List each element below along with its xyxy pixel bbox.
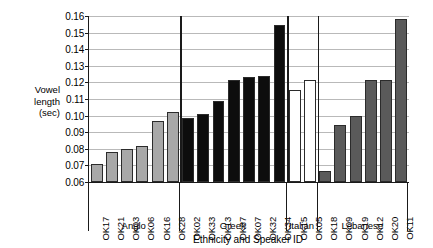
- y-axis-tick-label: 0.07: [65, 160, 84, 171]
- y-axis-tick-label: 0.11: [66, 94, 84, 105]
- bar: [334, 125, 346, 182]
- group-separator: [287, 16, 289, 182]
- group-label-anglo: Anglo: [88, 220, 179, 231]
- plot-area: [88, 16, 409, 183]
- x-axis-tick-labels: OK17OK21OK03OK06OK16OK28OK02OK33OK13OK37…: [88, 183, 408, 219]
- y-axis-tick-label: 0.12: [65, 77, 84, 88]
- y-axis-title: Vowel length (sec): [4, 84, 60, 119]
- y-axis-tick-label: 0.13: [65, 60, 84, 71]
- bar: [167, 112, 179, 182]
- bar: [289, 90, 301, 182]
- y-axis-title-line-1: Vowel: [4, 84, 60, 96]
- y-axis-tick-label: 0.14: [65, 44, 84, 55]
- group-label-italian: Italian: [286, 220, 316, 231]
- y-axis-title-line-2: length: [4, 96, 60, 108]
- bar: [213, 101, 225, 182]
- bar: [152, 121, 164, 182]
- bar: [197, 114, 209, 182]
- bar: [182, 118, 194, 182]
- group-boundary-tick: [88, 183, 89, 231]
- group-label-greek: Greek: [179, 220, 286, 231]
- group-boundary-tick: [407, 183, 408, 231]
- bar: [395, 19, 407, 182]
- bar: [365, 80, 377, 182]
- group-label-band: AngloGreekItalianLebanese: [88, 219, 408, 234]
- y-axis-tick-label: 0.10: [65, 110, 84, 121]
- y-axis-tick-labels: 0.060.070.080.090.100.110.120.130.140.15…: [58, 10, 84, 182]
- bar: [106, 152, 118, 182]
- y-axis-tick-label: 0.16: [65, 11, 84, 22]
- y-axis-tick-label: 0.06: [65, 177, 84, 188]
- group-separator: [180, 16, 182, 182]
- y-axis-tick-label: 0.15: [65, 27, 84, 38]
- bar: [91, 164, 103, 182]
- bar: [228, 80, 240, 182]
- bar: [319, 171, 331, 182]
- vowel-length-bar-chart: Vowel length (sec) 0.060.070.080.090.100…: [0, 0, 433, 248]
- bar: [136, 146, 148, 182]
- y-axis-tick-label: 0.09: [65, 127, 84, 138]
- bar: [304, 80, 316, 182]
- group-separator: [318, 16, 320, 182]
- bar: [350, 116, 362, 182]
- bar: [380, 80, 392, 182]
- bar: [258, 76, 270, 182]
- bar: [121, 149, 133, 182]
- bar-series: [89, 16, 409, 182]
- group-boundary-tick: [317, 183, 318, 231]
- group-boundary-tick: [286, 183, 287, 231]
- bar: [274, 25, 286, 182]
- y-axis-tick-label: 0.08: [65, 143, 84, 154]
- group-boundary-tick: [179, 183, 180, 231]
- y-axis-title-line-3: (sec): [4, 107, 60, 119]
- bar: [243, 77, 255, 182]
- x-axis-title: Ethnicity and Speaker ID: [88, 234, 408, 245]
- group-label-lebanese: Lebanese: [317, 220, 408, 231]
